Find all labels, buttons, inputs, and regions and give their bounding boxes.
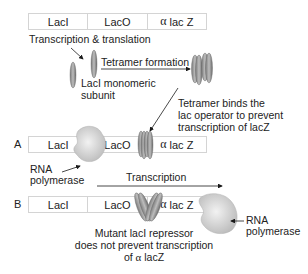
rna-polymerase-b-icon [199,194,237,234]
mutant-repressor-icon [132,192,165,223]
arrow-to-monomer [71,48,83,59]
tetramer-icon [192,53,213,85]
rna-polymerase-a-icon [74,126,106,161]
bound-tetramer-icon [138,131,153,159]
arrow-binds-operator [150,88,178,131]
arrow-rna-pol-a [62,166,80,172]
diagram-graphics [0,0,308,274]
laci-monomer-icon [70,50,97,88]
